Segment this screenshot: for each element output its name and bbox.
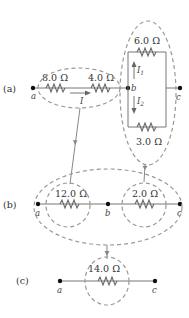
resistor-3ohm-label: 3.0 Ω [136,136,162,147]
current-I2-label: I2 [136,96,144,107]
current-I1-label: I1 [136,65,144,76]
arrowhead-down-icon [132,108,137,114]
panel-b-label: (b) [3,199,17,210]
node-b-label-b: b [105,208,110,218]
node-b-b [106,202,110,206]
panel-c: (c) 14.0 Ω a c [16,257,157,305]
circuit-diagram: (a) 8.0 Ω 4.0 Ω I a b 6.0 Ω 3.0 Ω I1 [0,0,189,318]
node-c [178,86,182,90]
resistor-8ohm-label: 8.0 Ω [42,72,68,83]
arrowhead-up-icon [132,61,137,67]
node-a-label: a [31,91,36,101]
resistor-6ohm-label: 6.0 Ω [134,35,160,46]
panel-b: (b) 12.0 Ω 2.0 Ω a b c [3,169,182,245]
current-I-label: I [79,96,84,106]
node-a-label-c: a [57,285,62,295]
resistor-2ohm-label: 2.0 Ω [132,188,158,199]
node-c-label: c [176,92,181,102]
panel-a-label: (a) [3,83,16,94]
node-b-label: b [131,83,136,93]
node-a [31,86,35,90]
resistor-14ohm-label: 14.0 Ω [88,263,120,274]
resistor-12ohm-label: 12.0 Ω [55,188,87,199]
panel-c-label: (c) [16,275,29,286]
arrowhead-icon [85,91,91,96]
node-a-c [58,279,62,283]
node-c-label-c: c [152,285,157,295]
panel-a: (a) 8.0 Ω 4.0 Ω I a b 6.0 Ω 3.0 Ω I1 [3,21,182,165]
series-b-outline [34,169,182,245]
node-c-c [153,279,157,283]
resistor-4ohm-label: 4.0 Ω [88,72,114,83]
node-a-b [36,202,40,206]
